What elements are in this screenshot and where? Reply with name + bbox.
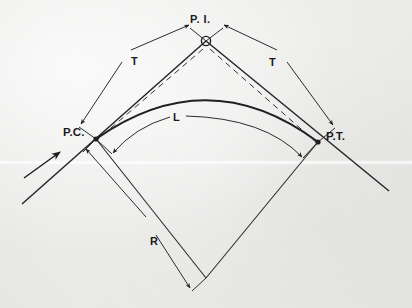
arc-length-dimension: [96, 116, 318, 158]
pc-point-marker: [93, 136, 98, 141]
l-extension-tick-right: [303, 142, 318, 158]
label-tangent-left: T: [131, 56, 138, 67]
t-left-dimension-upper: [131, 25, 189, 50]
t-right-dimension-upper: [224, 25, 277, 50]
tangent-dimension-right: [206, 25, 335, 142]
label-radius: R: [150, 236, 158, 247]
r-dimension-lower: [156, 235, 190, 288]
label-pt: P.T.: [326, 131, 345, 143]
t-left-extension-tick-pi: [190, 28, 206, 41]
pt-point-marker: [315, 139, 320, 144]
t-left-dimension-lower: [81, 62, 122, 124]
label-pc: P.C.: [63, 127, 85, 139]
tangent-dimension-left: [79, 25, 206, 139]
l-extension-tick-left: [96, 139, 112, 154]
chord-pi-to-pc: [97, 49, 203, 140]
diagram-page: P. I. P.C. P.T. T T L R: [0, 0, 412, 308]
direction-of-travel-arrow: [24, 152, 60, 178]
chord-lines: [97, 49, 317, 143]
chord-pi-to-pt: [210, 49, 317, 143]
r-dimension-upper: [86, 149, 146, 217]
r-extension-tick-pc: [83, 139, 96, 152]
radius-line-from-pc: [96, 139, 206, 278]
radius-line-from-pt: [206, 142, 318, 278]
main-curve-arc: [96, 100, 318, 142]
radius-lines: [96, 139, 318, 278]
label-arc-length: L: [173, 112, 180, 123]
forward-tangent-line: [206, 41, 389, 191]
tangent-lines: [22, 41, 389, 204]
r-extension-tick-centre: [192, 278, 206, 291]
l-arc-right-segment: [186, 116, 302, 157]
t-right-extension-tick-pi: [206, 28, 223, 41]
label-pi: P. I.: [190, 14, 211, 25]
t-right-dimension-lower: [287, 62, 333, 125]
label-tangent-right: T: [269, 57, 276, 68]
radius-dimension: [83, 139, 206, 291]
horizontal-curve-diagram: [0, 0, 412, 308]
